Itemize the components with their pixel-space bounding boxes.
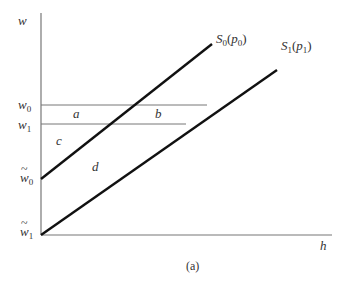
supply-diagram: w h w0 w1 w0 ~ w1 ~ S0(p0) S1(p1) a b c … [0, 0, 348, 289]
tick-w0-tilde: w0 ~ [20, 162, 34, 187]
s1-label: S1(p1) [281, 38, 312, 55]
svg-text:~: ~ [21, 216, 28, 230]
tick-w1-tilde: w1 ~ [20, 216, 33, 241]
figure-caption: (a) [186, 259, 199, 273]
region-b: b [155, 106, 162, 121]
s0-curve [41, 44, 212, 179]
region-a: a [73, 106, 80, 121]
x-axis-label: h [320, 238, 327, 253]
svg-text:~: ~ [21, 162, 28, 176]
tick-w1: w1 [18, 117, 31, 134]
s0-label: S0(p0) [216, 31, 247, 48]
region-d: d [92, 159, 99, 174]
region-c: c [56, 133, 62, 148]
tick-w0: w0 [18, 97, 32, 114]
y-axis-label: w [18, 13, 27, 28]
